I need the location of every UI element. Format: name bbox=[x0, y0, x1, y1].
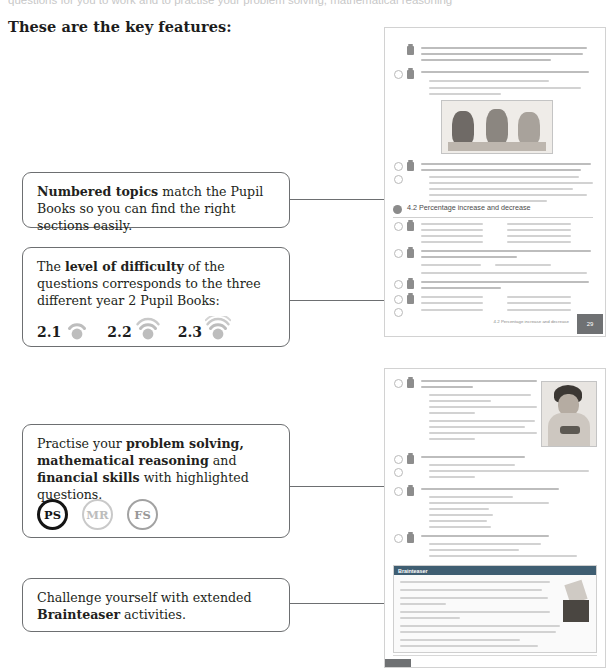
difficulty-level-2: 2.2 bbox=[107, 316, 160, 340]
text-line bbox=[429, 526, 491, 528]
text-line bbox=[421, 47, 587, 49]
skill-badge-row: PS MR FS bbox=[37, 499, 158, 530]
text-line bbox=[495, 264, 551, 266]
text-line bbox=[400, 581, 550, 583]
text-line bbox=[429, 87, 581, 89]
figure-shape bbox=[486, 109, 508, 145]
difficulty-marker-icon bbox=[394, 308, 403, 317]
text-line bbox=[421, 241, 483, 243]
callout-3-bold-1: problem solving, bbox=[126, 436, 244, 451]
badge-mr-label: MR bbox=[86, 508, 108, 522]
text-line bbox=[400, 639, 520, 641]
callout-level-of-difficulty: The level of difficulty of the questions… bbox=[22, 247, 290, 347]
callout-difficulty-text: The level of difficulty of the questions… bbox=[37, 258, 277, 309]
callout-numbered-topics-text: Numbered topics match the Pupil Books so… bbox=[37, 183, 277, 234]
section-divider bbox=[393, 217, 593, 218]
difficulty-marker-icon bbox=[394, 295, 403, 304]
page-number-box: 30 bbox=[385, 659, 411, 668]
callout-2-bold: level of difficulty bbox=[65, 259, 184, 274]
question-icon bbox=[407, 46, 414, 55]
text-line bbox=[429, 400, 491, 402]
question-icon bbox=[407, 487, 414, 496]
callout-3-bold-3: financial skills bbox=[37, 470, 140, 485]
page-number-box: 29 bbox=[577, 314, 603, 334]
ballot-box-shape bbox=[563, 600, 589, 622]
difficulty-level-row: 2.1 2.2 2.3 bbox=[37, 316, 231, 340]
text-line bbox=[421, 380, 537, 382]
table-shape bbox=[448, 142, 546, 151]
question-icon bbox=[407, 455, 414, 464]
text-line bbox=[421, 309, 483, 311]
connector-line-2 bbox=[290, 300, 394, 301]
text-line bbox=[429, 194, 587, 196]
badge-financial-skills: FS bbox=[127, 499, 158, 530]
text-line bbox=[421, 281, 589, 283]
text-line bbox=[421, 302, 483, 304]
callout-1-bold: Numbered topics bbox=[37, 184, 158, 199]
page-footer-text: 4.2 Percentage increase and decrease bbox=[494, 319, 569, 324]
callout-skills: Practise your problem solving, mathemati… bbox=[22, 424, 290, 538]
text-line bbox=[400, 617, 460, 619]
brainteaser-box: Brainteaser bbox=[393, 565, 597, 653]
page-footer-text: 4 Percentages bbox=[417, 666, 445, 668]
ballot-box-illustration bbox=[561, 582, 591, 624]
text-line bbox=[421, 256, 517, 258]
question-icon bbox=[407, 222, 414, 231]
text-line bbox=[421, 535, 549, 537]
text-line bbox=[429, 464, 515, 466]
difficulty-level-3: 2.3 bbox=[178, 316, 231, 340]
page-number: 30 bbox=[395, 666, 402, 668]
page-title: These are the key features: bbox=[8, 18, 232, 35]
text-line bbox=[429, 176, 579, 178]
text-line bbox=[429, 555, 577, 557]
difficulty-marker-icon bbox=[394, 468, 403, 477]
text-line bbox=[400, 611, 550, 613]
text-line bbox=[400, 589, 542, 591]
text-line bbox=[507, 235, 571, 237]
page-thumbnail-top[interactable]: 4.2 Percentage increase and decrease bbox=[384, 27, 606, 337]
text-line bbox=[429, 200, 547, 202]
signal-3-icon bbox=[205, 316, 231, 340]
signal-1-icon bbox=[64, 316, 90, 340]
text-line bbox=[507, 309, 571, 311]
text-line bbox=[400, 603, 446, 605]
question-icon bbox=[407, 249, 414, 258]
text-line bbox=[429, 426, 525, 428]
text-line bbox=[507, 302, 571, 304]
difficulty-marker-icon bbox=[394, 175, 403, 184]
text-line bbox=[507, 241, 571, 243]
signal-2-icon bbox=[135, 316, 161, 340]
footer-divider bbox=[393, 655, 597, 656]
text-line bbox=[421, 250, 591, 252]
page-thumbnail-bottom[interactable]: Brainteaser 30 4 Percentages bbox=[384, 368, 606, 668]
callout-3-bold-2: mathematical reasoning bbox=[37, 453, 209, 468]
photo-boy-gaming bbox=[541, 381, 597, 447]
difficulty-marker-icon bbox=[394, 534, 403, 543]
text-line bbox=[507, 296, 571, 298]
controller-shape bbox=[560, 426, 580, 434]
text-line bbox=[421, 456, 525, 458]
callout-brainteaser-text: Challenge yourself with extended Brainte… bbox=[37, 589, 277, 623]
difficulty-level-1: 2.1 bbox=[37, 316, 90, 340]
badge-mathematical-reasoning: MR bbox=[82, 499, 113, 530]
callout-brainteaser: Challenge yourself with extended Brainte… bbox=[22, 578, 290, 632]
text-line bbox=[429, 514, 493, 516]
difficulty-label-2: 2.2 bbox=[107, 325, 131, 340]
callout-3-mid: and bbox=[209, 453, 237, 468]
photo-pupils bbox=[441, 100, 553, 154]
question-icon bbox=[407, 280, 414, 289]
text-line bbox=[421, 169, 581, 171]
figure-shape bbox=[452, 111, 474, 145]
text-line bbox=[421, 229, 483, 231]
text-line bbox=[429, 182, 593, 184]
text-line bbox=[429, 188, 573, 190]
text-line bbox=[400, 631, 556, 633]
brainteaser-header-bar: Brainteaser bbox=[394, 566, 596, 575]
text-line bbox=[429, 520, 487, 522]
difficulty-marker-icon bbox=[394, 162, 403, 171]
brainteaser-title: Brainteaser bbox=[398, 568, 428, 574]
question-icon bbox=[407, 162, 414, 171]
difficulty-marker-icon bbox=[394, 280, 403, 289]
difficulty-marker-icon bbox=[394, 379, 403, 388]
text-line bbox=[429, 412, 475, 414]
